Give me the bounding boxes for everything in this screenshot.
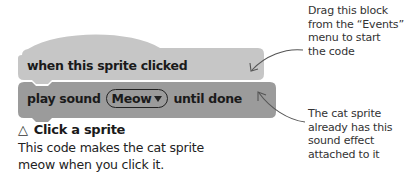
play-sound-prefix: play sound: [27, 91, 101, 106]
play-sound-suffix: until done: [173, 91, 242, 106]
annotation-line: already has this: [308, 121, 392, 135]
annotation-line: Drag this block: [308, 4, 404, 18]
dropdown-caret-icon: [154, 96, 162, 102]
caption-line: meow when you click it.: [18, 156, 204, 173]
sound-dropdown[interactable]: Meow: [106, 89, 169, 108]
play-sound-block[interactable]: play sound Meow until done: [27, 89, 242, 108]
sound-dropdown-value: Meow: [112, 91, 152, 106]
hat-block-label[interactable]: when this sprite clicked: [27, 58, 187, 73]
annotation-drag-block: Drag this block from the “Events” menu t…: [308, 4, 404, 58]
caption-heading: △ Click a sprite: [18, 122, 125, 137]
annotation-line: The cat sprite: [308, 107, 392, 121]
caption-description: This code makes the cat sprite meow when…: [18, 139, 204, 173]
triangle-icon: △: [18, 122, 28, 137]
annotation-line: sound effect: [308, 134, 392, 148]
annotation-line: menu to start: [308, 31, 404, 45]
caption-heading-text: Click a sprite: [34, 122, 125, 137]
annotation-line: the code: [308, 45, 404, 59]
annotation-sound-effect: The cat sprite already has this sound ef…: [308, 107, 392, 161]
annotation-line: attached to it: [308, 148, 392, 162]
annotation-line: from the “Events”: [308, 18, 404, 32]
caption-line: This code makes the cat sprite: [18, 139, 204, 156]
